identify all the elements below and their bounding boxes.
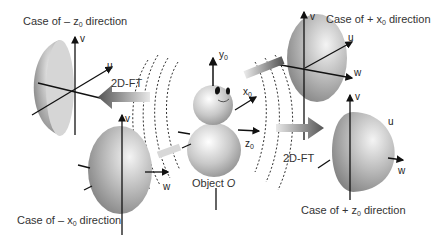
label-case-plus-x0: Case of + x0 direction <box>326 14 431 26</box>
label-2dft-left: 2D-FT <box>111 78 142 89</box>
axis-v-minus-z0: v <box>80 34 85 44</box>
axis-v-plus-z0: v <box>355 92 360 102</box>
axis-z0: z0 <box>245 139 254 150</box>
label-case-plus-z0: Case of + z0 direction <box>301 205 406 217</box>
hemisphere-minus-z0 <box>32 37 112 136</box>
axis-v-plus-x0: v <box>310 12 315 22</box>
axis-u-plus-z0: u <box>388 117 394 127</box>
axis-w-plus-z0: w <box>398 166 405 176</box>
hemisphere-plus-z0 <box>318 95 403 200</box>
diagram-canvas <box>0 0 443 235</box>
label-object: Object O <box>192 178 235 189</box>
axis-u-plus-x0: u <box>348 33 354 43</box>
label-2dft-right: 2D-FT <box>283 153 314 164</box>
axis-w-minus-x0: w <box>163 182 170 192</box>
axis-w-plus-x0: w <box>354 68 361 78</box>
axis-x0: x0 <box>243 87 252 98</box>
label-case-minus-z0: Case of – z0 direction <box>23 16 127 28</box>
axis-v-minus-x0: v <box>125 114 130 124</box>
axis-y0: y0 <box>219 50 228 61</box>
axis-u-minus-z0: u <box>107 61 113 71</box>
label-case-minus-x0: Case of – x0 direction <box>17 215 121 227</box>
